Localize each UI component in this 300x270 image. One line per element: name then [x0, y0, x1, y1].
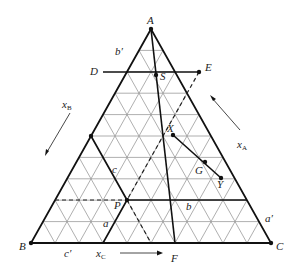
- label-A: A: [146, 14, 154, 26]
- label-C: C: [276, 240, 284, 252]
- point-E-dot: [197, 70, 201, 74]
- label-B: B: [19, 240, 26, 252]
- label-F: F: [170, 252, 178, 264]
- label-xC: xC: [95, 247, 106, 261]
- vertex-C-dot: [269, 241, 273, 245]
- point-G-dot: [203, 160, 207, 164]
- label-b-prime: b′: [115, 45, 124, 57]
- arrow-xB: [45, 113, 70, 156]
- line-c: [91, 136, 127, 200]
- label-E: E: [204, 61, 212, 73]
- label-xA: xA: [236, 138, 247, 152]
- point-P-dot: [125, 198, 129, 202]
- point-S-dot: [154, 73, 158, 77]
- point-c-top-dot: [89, 134, 93, 138]
- label-a-prime: a′: [265, 212, 274, 224]
- label-c-prime: c′: [64, 247, 72, 259]
- label-xB: xB: [61, 98, 72, 112]
- label-S: S: [160, 70, 166, 82]
- label-Y: Y: [217, 178, 225, 190]
- vertex-B-dot: [29, 241, 33, 245]
- ternary-diagram: A B C D E F S X G Y P a b c a′ b′ c′ xA …: [0, 0, 300, 270]
- label-G: G: [195, 164, 203, 176]
- label-D: D: [89, 65, 98, 77]
- arrow-xC: [120, 251, 163, 256]
- label-a: a: [103, 217, 109, 229]
- label-P: P: [113, 199, 121, 211]
- label-b: b: [186, 200, 192, 212]
- arrow-xA: [210, 95, 240, 130]
- label-c: c: [112, 163, 117, 175]
- vertex-A-dot: [149, 27, 153, 31]
- label-X: X: [166, 122, 175, 134]
- triangular-grid: [43, 50, 259, 243]
